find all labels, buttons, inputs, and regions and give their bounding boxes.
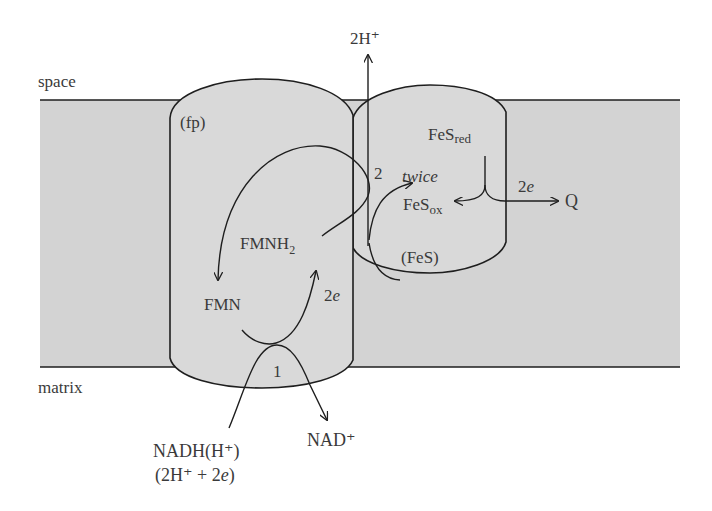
fp-label: (fp)	[180, 113, 205, 132]
nad-plus-label: NAD⁺	[307, 430, 356, 450]
twice-label: twice	[402, 167, 438, 186]
compartment-matrix-label: matrix	[38, 378, 83, 397]
compartment-space-label: space	[38, 72, 76, 91]
proton-out-label: 2H⁺	[350, 29, 380, 48]
nadh-electrons-label: (2H⁺ + 2e)	[155, 465, 235, 486]
step-1-label: 1	[273, 362, 282, 381]
fmn-label: FMN	[204, 295, 241, 314]
step-2-label: 2	[374, 164, 383, 183]
fes-label: (FeS)	[401, 248, 439, 267]
nadh-dehydrogenase-diagram: space matrix (fp) (FeS) 2H⁺ FMNH2 FMN Fe…	[0, 0, 712, 511]
nadh-label: NADH(H⁺)	[153, 441, 239, 462]
electrons-to-q-label: 2e	[518, 177, 535, 196]
ubiquinone-label: Q	[565, 191, 578, 211]
electrons-fmn-label: 2e	[324, 286, 341, 305]
